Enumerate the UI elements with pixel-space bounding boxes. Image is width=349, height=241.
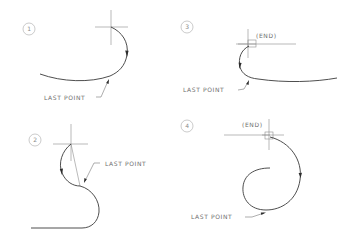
arc-curve — [40, 27, 127, 81]
arc-curve — [31, 144, 99, 228]
panel-number: 1 — [27, 25, 31, 32]
last-point-label: LAST POINT — [183, 86, 224, 93]
endpoint-snap-box-icon — [248, 40, 256, 47]
panel-number: 4 — [185, 122, 189, 129]
leader-line — [96, 81, 108, 97]
panel-3: 3 (END) LAST POINT — [181, 21, 337, 93]
last-point-label: LAST POINT — [191, 213, 232, 220]
snap-label: (END) — [256, 32, 277, 39]
leader-line — [85, 163, 100, 181]
direction-arrow-icon — [299, 173, 302, 178]
last-point-label: LAST POINT — [105, 160, 146, 167]
arc-continuation-diagram: 1 LAST POINT 3 (END) LAST POINT 2 LAST P… — [0, 0, 349, 241]
direction-arrow-icon — [125, 51, 128, 58]
spiral-curve — [243, 137, 301, 210]
chord-line — [71, 144, 80, 186]
leader-arrow-icon — [261, 212, 266, 215]
last-point-label: LAST POINT — [44, 94, 85, 101]
panel-1: 1 LAST POINT — [23, 10, 129, 101]
panel-2: 2 LAST POINT — [29, 124, 146, 228]
panel-number: 3 — [185, 23, 189, 30]
snap-label: (END) — [242, 121, 263, 128]
leader-line — [238, 82, 248, 90]
leader-arrow-icon — [106, 79, 109, 84]
panel-4: 4 (END) LAST POINT — [181, 119, 302, 220]
panel-number: 2 — [33, 136, 37, 143]
arc-curve — [239, 46, 337, 82]
